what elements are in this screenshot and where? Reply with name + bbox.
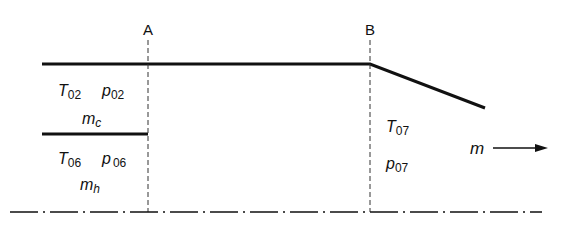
p07-label: p07 [385,155,409,175]
p02-label: p02 [101,82,125,102]
section-b-label: B [365,21,375,38]
p06-label: p06 [101,150,127,170]
mh-label: mh [80,176,100,196]
mixer-diagram: A B T02 p02 mc T06 p06 mh T07 p07 m [0,0,572,227]
flow-m-label: m [470,139,484,158]
section-a-label: A [143,21,153,38]
t06-label: T06 [58,150,81,170]
t07-label: T07 [386,118,409,138]
right-arrow-icon [493,144,548,152]
t02-label: T02 [58,82,81,102]
mc-label: mc [82,110,101,130]
